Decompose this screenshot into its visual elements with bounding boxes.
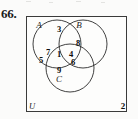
region-number-6: 6 <box>71 58 75 67</box>
universe-label: U <box>29 102 35 111</box>
set-label-a: A <box>36 21 42 30</box>
set-label-c: C <box>56 75 62 84</box>
region-number-9: 9 <box>57 66 61 75</box>
scan-artifact <box>49 2 53 3</box>
region-number-1: 1 <box>57 50 61 59</box>
region-number-7: 7 <box>46 48 50 57</box>
problem-number: 66. <box>1 7 16 20</box>
scan-artifact <box>76 1 81 2</box>
scan-artifact <box>101 2 105 3</box>
region-number-8: 8 <box>76 39 80 48</box>
venn-diagram-figure: 66. A B C 3 8 7 1 4 5 6 9 U 2 <box>0 0 138 119</box>
region-number-3: 3 <box>57 25 61 34</box>
corner-page-number: 2 <box>121 102 126 111</box>
set-label-b: B <box>76 21 82 30</box>
region-number-5: 5 <box>39 56 43 65</box>
scan-artifact <box>26 1 31 2</box>
